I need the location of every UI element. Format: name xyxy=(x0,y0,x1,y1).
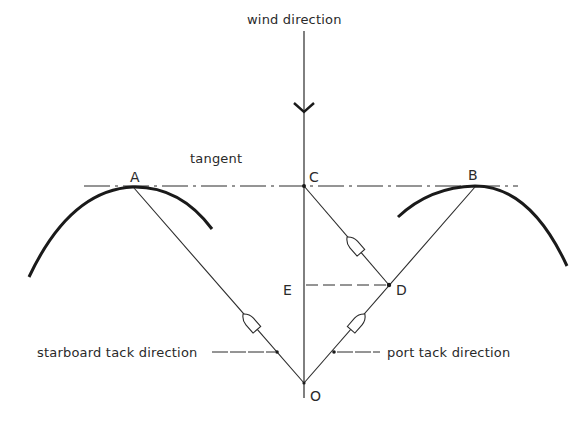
port-tack-label: port tack direction xyxy=(387,345,510,360)
point-c-dot xyxy=(302,184,306,188)
tacking-diagram: wind direction tangent A C B D E O starb… xyxy=(0,0,585,423)
point-o-label: O xyxy=(310,388,321,404)
point-o-dot xyxy=(302,381,305,384)
point-d-label: D xyxy=(396,282,407,298)
left-arc xyxy=(29,187,212,277)
cd-line xyxy=(304,186,389,285)
point-b-label: B xyxy=(468,167,478,183)
point-c-label: C xyxy=(309,169,319,185)
point-a-label: A xyxy=(130,169,140,185)
starboard-tack-label: starboard tack direction xyxy=(37,345,198,360)
port-marker-dot xyxy=(332,350,336,354)
right-arc xyxy=(398,186,567,266)
boat-starboard-icon xyxy=(239,311,260,333)
starboard-marker-dot xyxy=(275,350,279,354)
boat-cd-icon xyxy=(343,234,364,256)
boat-port-icon xyxy=(347,311,368,333)
wind-direction-label: wind direction xyxy=(247,12,342,27)
tangent-label: tangent xyxy=(190,151,242,166)
point-e-label: E xyxy=(283,282,292,298)
point-d-dot xyxy=(387,283,391,287)
